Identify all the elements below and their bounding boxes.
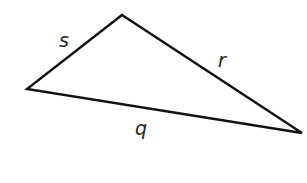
triangle-diagram: s r q — [0, 0, 307, 183]
side-label-s: s — [59, 29, 69, 51]
side-label-r: r — [218, 49, 227, 71]
side-label-q: q — [135, 117, 147, 139]
